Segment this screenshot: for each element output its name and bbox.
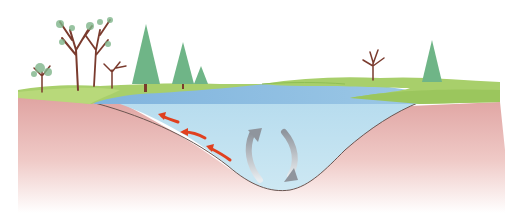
deciduous-tree bbox=[34, 20, 126, 92]
lake-cross-section-illustration bbox=[0, 0, 520, 213]
lake-diagram bbox=[0, 0, 520, 213]
bare-tree-right bbox=[363, 50, 384, 80]
